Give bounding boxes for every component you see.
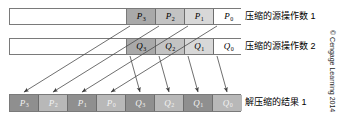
caption-packed-operand-2: 压缩的源操作数 2 [245,42,316,51]
cell-base: P [166,12,172,21]
arrow-q2 [159,56,169,92]
cell-base: Q [164,99,171,108]
arrow-q1 [188,56,198,92]
cell-base: Q [194,42,201,51]
packed-operand-2-cell: Q1 [185,39,214,54]
caption-packed-operand-1: 压缩的源操作数 1 [245,12,316,21]
unpacked-result-row: P3 P2 P1 P0 Q3 Q2 Q1 Q0 [9,94,241,112]
packed-unpack-diagram: P3 P2 P1 P0 Q3 Q2 Q1 Q0 P3 P2 [0,0,356,121]
arrow-q0 [217,56,227,92]
cell-base: P [49,99,55,108]
cell-subscript: 1 [201,16,204,22]
packed-operand-1-empty-region [10,9,127,24]
cell-subscript: 0 [231,46,234,52]
arrow-p0 [111,26,217,92]
packed-operand-2-empty-region [10,39,127,54]
cell-base: P [78,99,84,108]
cell-subscript: 1 [84,102,87,108]
unpacked-result-cell: P3 [10,95,39,111]
cell-base: P [20,99,26,108]
arrow-p3 [24,26,130,92]
cell-base: Q [224,42,231,51]
cell-base: P [224,12,230,21]
packed-operand-1-cell: P3 [127,9,156,24]
packed-operand-2-cell: Q0 [214,39,243,54]
packed-operand-1-cell: P0 [214,9,243,24]
packed-operand-2-cell: Q3 [127,39,156,54]
unpacked-result-cell: Q2 [155,95,184,111]
cell-base: Q [223,99,230,108]
cell-subscript: 0 [230,16,233,22]
arrow-p1 [82,26,188,92]
cell-subscript: 1 [200,102,203,108]
arrow-p2 [53,26,159,92]
packed-operand-1-cell: P1 [185,9,214,24]
cell-base: P [107,99,113,108]
caption-unpacked-result: 解压缩的结果 1 [245,98,307,107]
cell-base: P [195,12,201,21]
cell-base: Q [135,99,142,108]
cell-subscript: 0 [113,102,116,108]
packed-operand-2-cell: Q2 [156,39,185,54]
unpacked-result-cell: Q3 [126,95,155,111]
cell-subscript: 0 [230,102,233,108]
cell-subscript: 3 [143,16,146,22]
copyright-credit: © Cengage Learning 2014 [329,30,336,112]
cell-base: Q [193,99,200,108]
cell-base: P [137,12,143,21]
cell-subscript: 3 [26,102,29,108]
arrow-q3 [130,56,140,92]
packed-operand-1-row: P3 P2 P1 P0 [9,8,241,25]
packed-operand-1-cell: P2 [156,9,185,24]
packed-operand-2-row: Q3 Q2 Q1 Q0 [9,38,241,55]
cell-subscript: 3 [142,102,145,108]
cell-base: Q [136,42,143,51]
unpacked-result-cell: P0 [97,95,126,111]
unpacked-result-cell: P2 [39,95,68,111]
cell-base: Q [165,42,172,51]
cell-subscript: 1 [201,46,204,52]
unpacked-result-cell: Q0 [213,95,242,111]
unpacked-result-cell: P1 [68,95,97,111]
cell-subscript: 2 [55,102,58,108]
unpacked-result-cell: Q1 [184,95,213,111]
cell-subscript: 2 [172,46,175,52]
cell-subscript: 2 [171,102,174,108]
cell-subscript: 2 [172,16,175,22]
cell-subscript: 3 [143,46,146,52]
